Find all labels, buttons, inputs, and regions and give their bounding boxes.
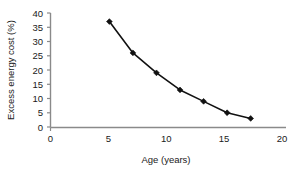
y-tick-label: 40: [32, 8, 43, 19]
data-point-marker: [248, 116, 254, 122]
x-tick-label: 0: [48, 133, 53, 144]
y-tick-label: 0: [38, 122, 43, 133]
x-axis-title: Age (years): [141, 154, 190, 165]
x-tick-label: 5: [106, 133, 111, 144]
y-axis-title: Excess energy cost (%): [5, 20, 16, 120]
data-point-marker: [224, 110, 230, 116]
y-tick-label: 20: [32, 65, 43, 76]
x-tick-label: 20: [277, 133, 288, 144]
line-chart: 40 35 30 25 20 15 10 5 0 0 5 10 15 20 Ag…: [0, 0, 301, 174]
y-tick-label: 25: [32, 50, 43, 61]
data-line-series: [109, 22, 250, 119]
y-tick-label: 10: [32, 93, 43, 104]
data-point-marker: [201, 98, 207, 104]
x-axis-tick-labels: 0 5 10 15 20: [48, 133, 287, 144]
y-tick-label: 30: [32, 36, 43, 47]
y-axis-tick-labels: 40 35 30 25 20 15 10 5 0: [32, 8, 43, 133]
y-tick-label: 35: [32, 22, 43, 33]
x-tick-label: 15: [219, 133, 230, 144]
x-tick-label: 10: [161, 133, 172, 144]
chart-container: 40 35 30 25 20 15 10 5 0 0 5 10 15 20 Ag…: [0, 0, 301, 174]
data-point-markers: [106, 19, 253, 122]
y-tick-label: 15: [32, 79, 43, 90]
y-tick-label: 5: [38, 107, 43, 118]
